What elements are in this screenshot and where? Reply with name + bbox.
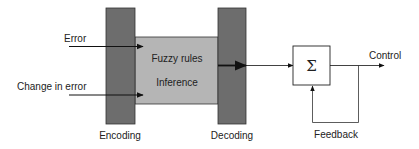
core-label-fuzzy-rules: Fuzzy rules [151,53,202,64]
control-label: Control [369,50,401,61]
decoding-label: Decoding [211,130,253,141]
input-label-error: Error [64,33,87,44]
core-label-inference: Inference [156,77,198,88]
encoding-label: Encoding [99,130,141,141]
fuzzy-inference-block [135,37,218,104]
sigma-symbol: Σ [306,57,317,75]
fuzzy-controller-diagram: Σ Error Change in error Fuzzy rules Infe… [0,0,419,149]
feedback-label: Feedback [314,129,359,140]
encoding-block [106,8,135,124]
input-label-change-in-error: Change in error [17,81,87,92]
